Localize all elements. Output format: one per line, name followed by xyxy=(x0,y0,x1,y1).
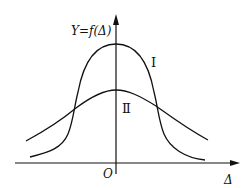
curve-II-label: Ⅱ xyxy=(122,101,131,116)
distribution-diagram: Y=f(Δ) Ⅰ Ⅱ O Δ xyxy=(0,0,246,188)
x-axis-arrow-icon xyxy=(230,160,240,166)
x-axis xyxy=(15,160,240,166)
y-axis-arrow-icon xyxy=(113,14,119,25)
curve-II xyxy=(26,90,208,141)
curve-I xyxy=(30,44,205,160)
y-axis-label: Y=f(Δ) xyxy=(71,24,112,38)
x-axis-label: Δ xyxy=(223,173,233,187)
origin-label: O xyxy=(103,167,113,181)
curve-I-label: Ⅰ xyxy=(151,55,156,70)
y-axis xyxy=(113,14,119,174)
